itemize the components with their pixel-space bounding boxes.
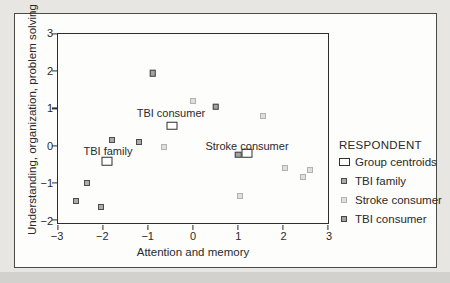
y-tick-label: 2 <box>47 65 53 77</box>
data-point-tbi-family <box>73 198 79 204</box>
scanned-figure-page: Understanding, organization, problem sol… <box>0 0 450 283</box>
x-tick-label: 0 <box>190 230 196 242</box>
y-tick-label: −2 <box>40 215 53 227</box>
x-axis-tick <box>147 225 148 230</box>
data-point-tbi-family <box>98 204 104 210</box>
x-axis-label: Attention and memory <box>57 246 329 258</box>
data-point-stroke-consumer <box>300 174 306 180</box>
legend-item-label: Group centroids <box>355 156 437 168</box>
x-tick-label: 1 <box>235 230 241 242</box>
x-tick-label: 3 <box>326 230 332 242</box>
x-tick-label: −1 <box>141 230 154 242</box>
annotation-tbi-family: TBI family <box>83 145 132 157</box>
legend-title: RESPONDENT <box>339 139 422 151</box>
x-axis-tick <box>192 225 193 230</box>
data-point-tbi-consumer <box>149 70 156 77</box>
data-point-stroke-consumer <box>237 193 243 199</box>
legend-marker-consumer-icon <box>337 216 351 223</box>
x-tick-label: −2 <box>96 230 109 242</box>
consumer-marker-icon <box>341 216 348 223</box>
plot-area: TBI familyTBI consumerStroke consumer <box>57 33 329 224</box>
data-point-tbi-consumer <box>212 103 219 110</box>
legend-item-label: Stroke consumer <box>355 194 442 206</box>
legend-marker-family-icon <box>337 178 351 184</box>
data-point-tbi-consumer <box>235 152 242 159</box>
data-point-tbi-family <box>136 139 142 145</box>
data-point-stroke-consumer <box>282 165 288 171</box>
family-marker-icon <box>341 178 347 184</box>
data-point-group-centroids <box>101 157 112 166</box>
legend-item-tbi-family: TBI family <box>337 174 406 188</box>
centroid-marker-icon <box>339 158 350 167</box>
y-tick-labels: 3210−1−2 <box>25 33 53 224</box>
annotation-tbi-consumer: TBI consumer <box>137 107 205 119</box>
legend-item-tbi-consumer: TBI consumer <box>337 212 427 226</box>
y-tick-label: 1 <box>47 102 53 114</box>
legend-marker-centroid-icon <box>337 158 351 167</box>
x-tick-label: −3 <box>51 230 64 242</box>
data-point-group-centroids <box>167 121 178 130</box>
figure-frame: Understanding, organization, problem sol… <box>14 13 437 268</box>
legend-item-label: TBI consumer <box>355 213 427 225</box>
data-point-tbi-family <box>109 137 115 143</box>
x-axis-tick <box>102 225 103 230</box>
legend-item-label: TBI family <box>355 175 406 187</box>
x-tick-labels: −3−2−10123 <box>57 230 329 243</box>
x-tick-label: 2 <box>281 230 287 242</box>
x-axis-tick <box>57 225 58 230</box>
data-point-tbi-family <box>84 180 90 186</box>
data-point-stroke-consumer <box>190 98 196 104</box>
legend-item-stroke-consumer: Stroke consumer <box>337 193 442 207</box>
x-axis-tick <box>327 225 328 230</box>
x-axis-tick <box>282 225 283 230</box>
y-tick-label: −1 <box>40 177 53 189</box>
y-tick-label: 3 <box>47 27 53 39</box>
x-axis-tick <box>237 225 238 230</box>
legend-item-group-centroids: Group centroids <box>337 155 437 169</box>
y-tick-label: 0 <box>47 140 53 152</box>
stroke-marker-icon <box>341 197 347 203</box>
legend-marker-stroke-icon <box>337 197 351 203</box>
page-bottom-band <box>0 272 450 283</box>
data-point-stroke-consumer <box>161 144 167 150</box>
data-point-stroke-consumer <box>307 167 313 173</box>
annotation-stroke-consumer: Stroke consumer <box>205 140 288 152</box>
data-point-stroke-consumer <box>260 113 266 119</box>
